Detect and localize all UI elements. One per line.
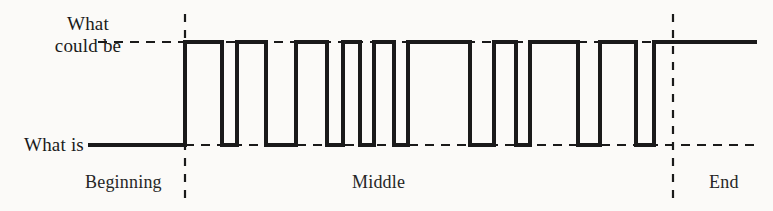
guide-lines-group [98,42,757,145]
axis-label-what-could-be-line2: could be [36,35,140,57]
axis-label-what-could-be-line1: What [36,13,140,35]
square-wave-figure: What could be What is Beginning Middle E… [0,0,773,211]
axis-label-what-could-be: What could be [36,13,140,57]
axis-label-what-is: What is [24,134,140,156]
square-wave-path [88,42,757,145]
phase-label-middle: Middle [352,172,405,192]
phase-label-beginning: Beginning [85,172,162,192]
phase-label-end: End [709,172,739,192]
